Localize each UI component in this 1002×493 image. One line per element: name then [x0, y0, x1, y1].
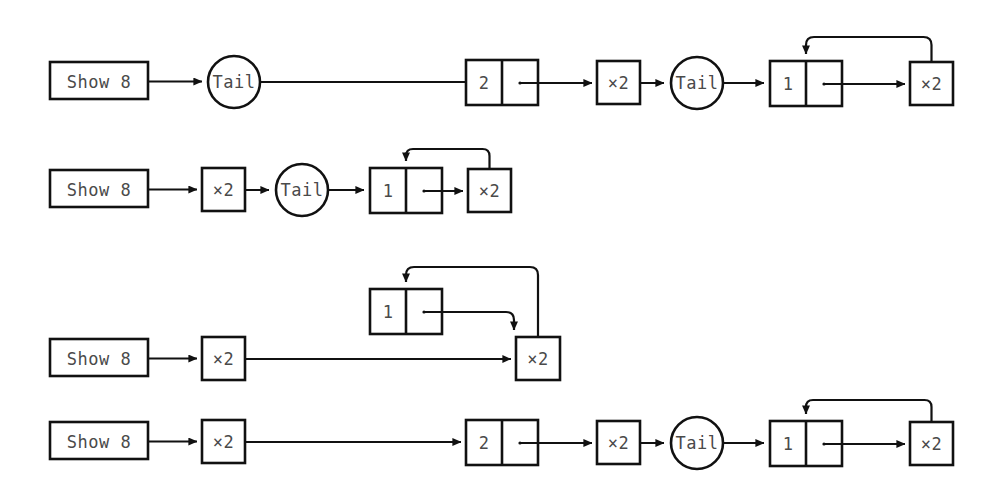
tail-label-row2: Tail: [281, 180, 324, 200]
node-times2-b-row4: ×2: [597, 421, 640, 464]
cons1-head-label-row2: 1: [383, 181, 394, 201]
cons2-head-label-row1: 2: [479, 73, 490, 93]
graph-reduction-diagram: Show 8 Tail 2 ×2 Tail: [0, 0, 1002, 493]
show8-label-row2: Show 8: [67, 180, 131, 200]
show8-label-row1: Show 8: [67, 72, 131, 92]
node-tail-2-row1: Tail: [671, 57, 723, 109]
times2a-label-row4: ×2: [213, 432, 234, 452]
node-show8-row4: Show 8: [50, 422, 148, 459]
node-times2-b-row1: ×2: [910, 62, 953, 105]
node-show8-row2: Show 8: [50, 170, 148, 207]
cons1-head-label-row1: 1: [783, 74, 794, 94]
times2c-label-row4: ×2: [921, 434, 942, 454]
times2b-label-row1: ×2: [921, 74, 942, 94]
node-tail-1-row1: Tail: [208, 56, 260, 108]
times2a-label-row1: ×2: [608, 73, 629, 93]
node-times2-a-row3: ×2: [202, 337, 245, 380]
times2a-label-row2: ×2: [213, 180, 234, 200]
node-times2-b-row3: ×2: [516, 337, 560, 380]
cycle-edge-times2b-to-cons1-row2: [406, 149, 490, 169]
node-times2-a-row2: ×2: [202, 168, 245, 211]
node-tail-row2: Tail: [276, 164, 328, 216]
node-times2-a-row1: ×2: [597, 61, 640, 104]
node-times2-b-row2: ×2: [468, 169, 511, 212]
cons2-head-label-row4: 2: [479, 433, 490, 453]
show8-label-row4: Show 8: [67, 432, 131, 452]
times2b-label-row4: ×2: [608, 433, 629, 453]
diagram-row-3: Show 8 ×2 1 ×2: [50, 267, 560, 380]
times2b-label-row3: ×2: [527, 349, 548, 369]
node-tail-row4: Tail: [671, 417, 723, 469]
node-times2-a-row4: ×2: [202, 420, 245, 463]
times2a-label-row3: ×2: [213, 349, 234, 369]
diagram-row-4: Show 8 ×2 2 ×2 Tail: [50, 400, 953, 469]
node-times2-c-row4: ×2: [910, 422, 953, 465]
node-show8-row3: Show 8: [50, 339, 148, 376]
cycle-edge-times2c-to-cons1-row4: [806, 400, 932, 422]
tail-label-row4: Tail: [676, 433, 719, 453]
times2b-label-row2: ×2: [479, 181, 500, 201]
diagram-row-2: Show 8 ×2 Tail 1 ×2: [50, 149, 511, 216]
diagram-canvas: Show 8 Tail 2 ×2 Tail: [0, 0, 1002, 493]
tail-label-1-row1: Tail: [213, 72, 256, 92]
show8-label-row3: Show 8: [67, 349, 131, 369]
cycle-edge-times2b-to-cons1-row1: [806, 37, 932, 62]
diagram-row-1: Show 8 Tail 2 ×2 Tail: [50, 37, 953, 109]
cons1-head-label-row4: 1: [783, 434, 794, 454]
cons1-head-label-row3: 1: [383, 302, 394, 322]
tail-label-2-row1: Tail: [676, 73, 719, 93]
node-show8-row1: Show 8: [50, 62, 148, 99]
